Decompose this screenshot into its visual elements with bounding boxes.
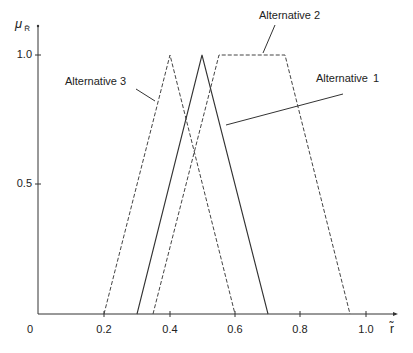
x-tick-0-6: 0.6	[227, 323, 242, 335]
x-tick-0-8: 0.8	[292, 323, 307, 335]
label-alternative-2: Alternative 2	[259, 9, 320, 21]
leader-alternative-3	[136, 89, 155, 101]
x-tick-0-4: 0.4	[162, 323, 177, 335]
x-tick-0-2: 0.2	[96, 323, 111, 335]
leader-alternative-2	[263, 25, 275, 53]
x-axis-label: r̃	[390, 322, 394, 336]
y-tick-1-0: 1.0	[2, 48, 32, 60]
leader-alternative-1	[226, 94, 343, 125]
x-tick-origin: 0	[27, 323, 33, 335]
y-tick-0-5: 0.5	[2, 177, 32, 189]
series-alternative-1	[137, 55, 268, 314]
series-alternative-2	[153, 55, 350, 314]
label-alternative-1: Alternative 1	[316, 72, 379, 84]
y-axis-label: μR̃	[15, 16, 28, 31]
label-alternative-3: Alternative 3	[65, 75, 126, 87]
x-tick-1-0: 1.0	[358, 323, 373, 335]
x-axis-arrow	[393, 312, 398, 316]
membership-chart	[0, 0, 413, 353]
